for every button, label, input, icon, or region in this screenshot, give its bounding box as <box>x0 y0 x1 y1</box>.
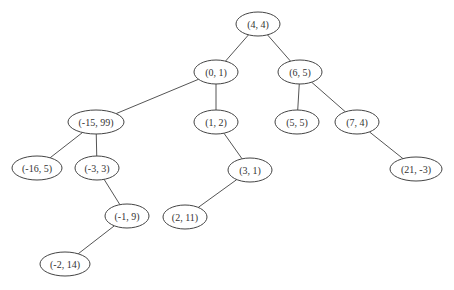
tree-node: (0, 1) <box>194 60 238 84</box>
tree-node: (-16, 5) <box>12 156 62 180</box>
tree-edge <box>369 132 403 159</box>
tree-edge <box>267 35 290 61</box>
tree-node: (4, 4) <box>236 12 280 36</box>
tree-edge <box>224 133 242 159</box>
node-label: (0, 1) <box>205 67 227 79</box>
tree-edge <box>225 35 248 61</box>
node-label: (5, 5) <box>286 117 308 129</box>
tree-edge <box>50 133 82 158</box>
node-label: (4, 4) <box>247 19 269 31</box>
node-label: (7, 4) <box>346 117 368 129</box>
tree-node: (-3, 3) <box>75 156 119 180</box>
nodes-group: (4, 4)(0, 1)(6, 5)(-15, 99)(1, 2)(5, 5)(… <box>12 12 442 276</box>
tree-node: (2, 11) <box>163 205 207 229</box>
node-label: (-2, 14) <box>50 259 80 271</box>
tree-edge <box>104 179 120 204</box>
tree-edge <box>198 180 237 208</box>
tree-edge <box>298 84 300 110</box>
node-label: (3, 1) <box>239 165 261 177</box>
node-label: (-15, 99) <box>79 117 114 129</box>
tree-diagram: (4, 4)(0, 1)(6, 5)(-15, 99)(1, 2)(5, 5)(… <box>0 0 454 290</box>
tree-node: (5, 5) <box>275 110 319 134</box>
node-label: (6, 5) <box>289 67 311 79</box>
tree-edge <box>78 226 114 254</box>
node-label: (21, -3) <box>401 164 431 176</box>
node-label: (-1, 9) <box>115 211 140 223</box>
tree-node: (7, 4) <box>335 110 379 134</box>
tree-node: (-15, 99) <box>68 110 124 134</box>
tree-node: (1, 2) <box>194 110 238 134</box>
tree-svg: (4, 4)(0, 1)(6, 5)(-15, 99)(1, 2)(5, 5)(… <box>0 0 454 290</box>
node-label: (2, 11) <box>172 212 198 224</box>
tree-node: (21, -3) <box>390 157 442 181</box>
node-label: (1, 2) <box>205 117 227 129</box>
node-label: (-16, 5) <box>22 163 52 175</box>
tree-node: (-2, 14) <box>40 252 90 276</box>
tree-node: (-1, 9) <box>105 204 149 228</box>
tree-edge <box>312 82 346 112</box>
tree-edge <box>116 79 198 113</box>
tree-node: (3, 1) <box>228 158 272 182</box>
tree-node: (6, 5) <box>278 60 322 84</box>
node-label: (-3, 3) <box>85 163 110 175</box>
